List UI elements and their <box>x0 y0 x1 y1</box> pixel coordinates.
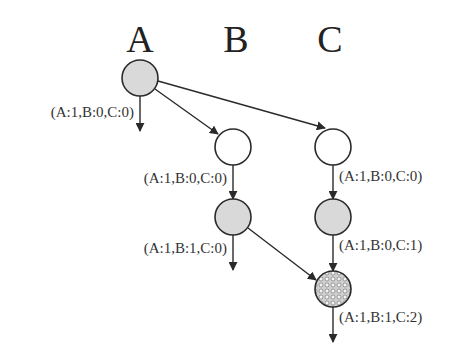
event-node-c2 <box>315 199 351 235</box>
event-node-a1 <box>122 60 158 96</box>
clock-label-c3: (A:1,B:1,C:2) <box>339 309 422 326</box>
edge-a1-c1 <box>158 81 325 128</box>
column-label-a: A <box>126 18 154 60</box>
vector-clock-diagram: A B C (A:1,B:0,C:0) (A:1,B:0,C:0) (A:1,B… <box>0 0 470 357</box>
event-node-b2 <box>215 199 251 235</box>
clock-label-c2: (A:1,B:0,C:1) <box>339 237 422 254</box>
event-node-b1 <box>215 129 251 165</box>
clock-label-b1: (A:1,B:0,C:0) <box>144 170 227 187</box>
clock-label-b2: (A:1,B:1,C:0) <box>144 240 227 257</box>
column-label-b: B <box>223 18 248 60</box>
edge-b2-c3 <box>248 228 316 280</box>
clock-label-c1: (A:1,B:0,C:0) <box>339 168 422 185</box>
clock-label-a1: (A:1,B:0,C:0) <box>51 104 134 121</box>
event-node-c1 <box>315 129 351 165</box>
event-node-c3-merged <box>315 271 351 307</box>
column-label-c: C <box>317 18 342 60</box>
